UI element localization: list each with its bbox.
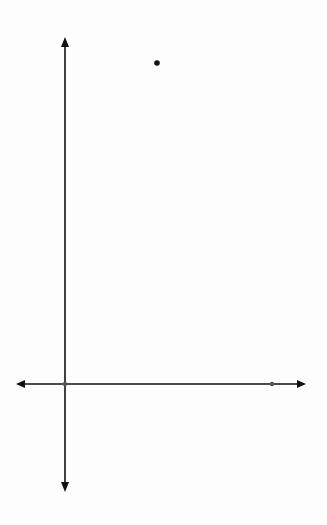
root-point-origin bbox=[63, 382, 67, 386]
axes bbox=[16, 37, 306, 492]
chart-canvas bbox=[0, 0, 327, 525]
root-point-right bbox=[270, 382, 274, 386]
y-axis-up-arrow-icon bbox=[61, 37, 69, 47]
y-axis-down-arrow-icon bbox=[61, 482, 69, 492]
peak-point bbox=[154, 60, 160, 66]
x-axis-left-arrow-icon bbox=[16, 380, 25, 388]
x-axis-right-arrow-icon bbox=[297, 380, 306, 388]
